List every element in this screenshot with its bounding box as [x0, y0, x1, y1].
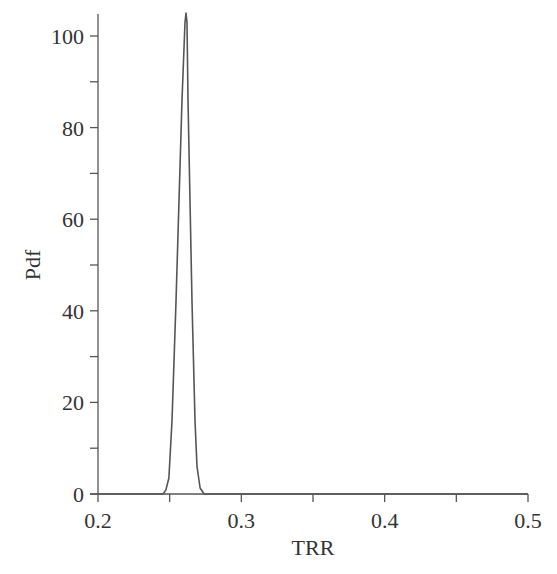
- y-tick-label: 100: [51, 24, 84, 49]
- x-tick-label: 0.3: [228, 508, 256, 533]
- y-tick-label: 20: [62, 390, 84, 415]
- y-axis-ticks: 020406080100: [51, 24, 98, 507]
- axes: [90, 14, 528, 494]
- pdf-chart: 0.20.30.40.5 020406080100 TRR Pdf: [0, 0, 557, 574]
- y-tick-label: 80: [62, 116, 84, 141]
- y-axis-label: Pdf: [20, 249, 45, 280]
- x-tick-label: 0.4: [371, 508, 399, 533]
- y-tick-label: 0: [73, 482, 84, 507]
- y-tick-label: 60: [62, 207, 84, 232]
- pdf-curve: [98, 13, 528, 494]
- plot-area: [98, 13, 528, 494]
- y-tick-label: 40: [62, 299, 84, 324]
- x-tick-label: 0.2: [84, 508, 112, 533]
- x-axis-ticks: 0.20.30.40.5: [84, 494, 542, 533]
- x-tick-label: 0.5: [514, 508, 542, 533]
- x-axis-label: TRR: [292, 535, 335, 560]
